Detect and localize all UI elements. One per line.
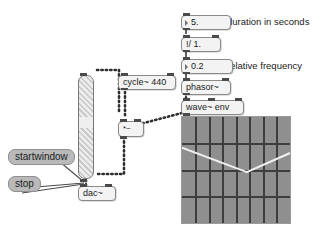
max-patcher-window[interactable]: 5. duration in seconds !/ 1. 0.2 relativ…: [0, 0, 334, 231]
outlet-multiply[interactable]: [120, 136, 127, 139]
message-stop-label: stop: [15, 178, 34, 189]
inlet-dac-left[interactable]: [80, 184, 87, 187]
object-reciprocal-divide-label: !/ 1.: [186, 39, 201, 49]
inlet-wave-display[interactable]: [183, 114, 190, 117]
message-startwindow[interactable]: startwindow: [8, 149, 75, 165]
inlet-cycle-left[interactable]: [121, 73, 128, 76]
cord-wave-to-multiply-right: [140, 113, 182, 124]
outlet-relfreq[interactable]: [183, 72, 190, 75]
inlet-reciprocal-right[interactable]: [212, 35, 219, 38]
inlet-dac-right[interactable]: [105, 184, 112, 187]
inlet-cycle-right[interactable]: [167, 73, 174, 76]
outlet-duration[interactable]: [183, 28, 190, 31]
volume-slider-knob[interactable]: [79, 117, 93, 128]
inlet-relfreq[interactable]: [183, 57, 190, 60]
object-cycle-label: cycle~ 440: [123, 77, 166, 87]
message-startwindow-label: startwindow: [15, 151, 68, 162]
cord-multiply-to-slider: [97, 137, 124, 174]
object-signal-multiply[interactable]: *~: [118, 121, 144, 137]
cord-slider-top-loop: [97, 70, 119, 112]
inlet-phasor-left[interactable]: [183, 78, 190, 81]
comment-relative-frequency: relative frequency: [227, 60, 302, 72]
inlet-wave-right[interactable]: [235, 98, 242, 101]
object-signal-multiply-label: *~: [123, 124, 131, 133]
inlet-multiply-right[interactable]: [134, 119, 141, 122]
inlet-wave-left[interactable]: [183, 98, 190, 101]
object-dac-label: dac~: [83, 188, 103, 198]
outlet-reciprocal[interactable]: [183, 50, 190, 53]
comment-duration-in-seconds: duration in seconds: [227, 16, 309, 28]
number-box-duration-value: 5.: [191, 17, 199, 27]
outlet-slider[interactable]: [80, 179, 87, 182]
inlet-phasor-right[interactable]: [222, 78, 229, 81]
object-wave-env[interactable]: wave~ env: [181, 100, 244, 115]
inlet-reciprocal-left[interactable]: [183, 35, 190, 38]
number-box-relative-frequency-value: 0.2: [191, 61, 204, 71]
inlet-duration[interactable]: [183, 13, 190, 16]
inlet-wave-middle[interactable]: [208, 98, 215, 101]
message-stop[interactable]: stop: [8, 176, 41, 192]
outlet-cycle[interactable]: [121, 88, 128, 91]
object-phasor-label: phasor~: [186, 82, 219, 92]
inlet-multiply-left[interactable]: [120, 119, 127, 122]
envelope-waveform-line: [182, 117, 290, 223]
object-wave-env-label: wave~ env: [186, 102, 229, 112]
outlet-phasor[interactable]: [183, 93, 190, 96]
buffer-waveform-display[interactable]: [181, 116, 291, 224]
volume-slider[interactable]: [78, 75, 94, 179]
object-dac[interactable]: dac~: [78, 186, 116, 201]
inlet-slider[interactable]: [80, 73, 87, 76]
